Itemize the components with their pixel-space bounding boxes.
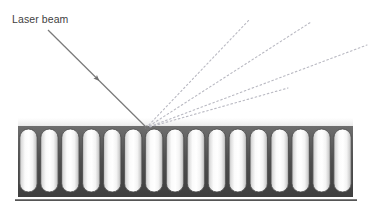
- nanorod: [313, 129, 331, 192]
- nanorod: [62, 129, 80, 192]
- nanorod: [229, 129, 247, 192]
- nanorod: [250, 129, 268, 192]
- nanorod: [103, 129, 121, 192]
- nanorod: [187, 129, 205, 192]
- nanorod: [83, 129, 101, 192]
- nanorod: [41, 129, 59, 192]
- scattered-ray: [146, 19, 250, 128]
- scattered-ray: [146, 22, 311, 128]
- nanorod: [334, 129, 352, 192]
- nanorod: [124, 129, 142, 192]
- nanorod: [166, 129, 184, 192]
- figure-canvas: Laser beam: [0, 0, 369, 207]
- nanorod: [20, 129, 38, 192]
- nanorod: [145, 129, 163, 192]
- laser-beam-label: Laser beam: [12, 13, 68, 25]
- nanorod: [208, 129, 226, 192]
- nanorod: [292, 129, 310, 192]
- incident-laser-beam: [48, 30, 149, 130]
- diagram-vector-layer: [0, 0, 369, 207]
- scattered-rays-group: [146, 19, 367, 128]
- nanorod: [271, 129, 289, 192]
